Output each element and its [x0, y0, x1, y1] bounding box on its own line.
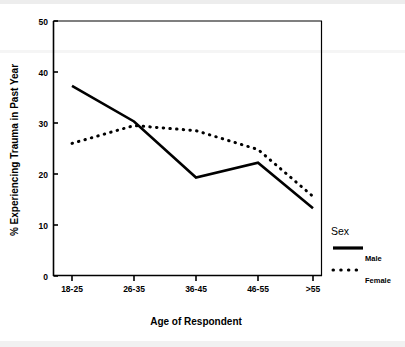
y-axis-title: % Experiencing Trauma in Past Year: [9, 64, 20, 236]
y-tick-label: 0: [43, 272, 48, 282]
x-axis-title: Age of Respondent: [150, 316, 242, 327]
x-tick-label: >55: [306, 284, 321, 294]
figure-canvas: 50 40 30 20 10 0 18-25 26-35 36-45 46-55…: [0, 0, 405, 347]
legend-item-male: Male: [365, 254, 382, 263]
y-tick-label: 20: [39, 170, 49, 180]
series-line-male: [72, 86, 313, 208]
legend: Sex Male Female: [331, 225, 391, 285]
y-tick-label: 40: [39, 68, 49, 78]
legend-title: Sex: [331, 225, 350, 237]
x-axis-ticks: [72, 276, 313, 281]
series-group: [72, 86, 313, 208]
x-tick-label: 36-45: [185, 284, 207, 294]
series-line-female: [72, 126, 313, 197]
line-chart: 50 40 30 20 10 0 18-25 26-35 36-45 46-55…: [0, 0, 405, 347]
legend-item-female: Female: [365, 276, 391, 285]
y-tick-label: 10: [39, 221, 49, 231]
x-tick-label: 46-55: [247, 284, 269, 294]
x-tick-labels: 18-25 26-35 36-45 46-55 >55: [61, 284, 320, 294]
y-tick-label: 50: [39, 17, 49, 27]
y-tick-labels: 50 40 30 20 10 0: [39, 17, 49, 282]
x-tick-label: 18-25: [61, 284, 83, 294]
x-tick-label: 26-35: [123, 284, 145, 294]
plot-frame: [54, 21, 323, 276]
y-tick-label: 30: [39, 119, 49, 129]
